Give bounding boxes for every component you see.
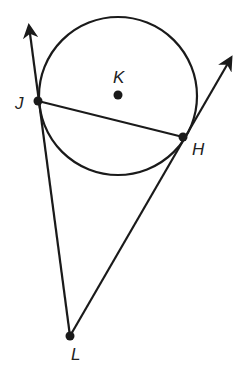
ray-lh xyxy=(70,58,231,336)
label-k: K xyxy=(113,68,125,87)
point-k xyxy=(114,91,123,100)
point-l xyxy=(66,332,75,341)
ray-lj xyxy=(29,26,70,336)
label-h: H xyxy=(192,140,205,159)
point-j xyxy=(34,97,43,106)
chord-jh xyxy=(38,101,183,137)
geometry-diagram: J K H L xyxy=(0,0,240,373)
point-h xyxy=(179,133,188,142)
label-j: J xyxy=(14,94,24,113)
label-l: L xyxy=(71,345,80,364)
